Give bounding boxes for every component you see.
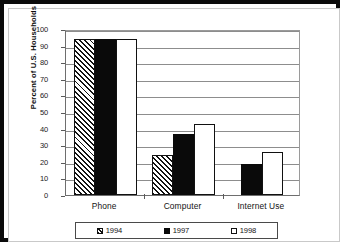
chart-canvas: Percent of U.S. Households 0102030405060… — [8, 8, 340, 242]
y-axis-tick-label: 20 — [24, 159, 48, 167]
legend-item-1998[interactable]: 1998 — [210, 227, 277, 235]
chart-outer-frame: Percent of U.S. Households 0102030405060… — [0, 0, 340, 242]
bar-computer-1994 — [152, 155, 173, 195]
legend-item-1994[interactable]: 1994 — [76, 227, 143, 235]
category-label-phone: Phone — [65, 201, 143, 211]
legend-item-1997[interactable]: 1997 — [143, 227, 210, 235]
legend-label: 1994 — [106, 227, 123, 235]
chart-legend: 199419971998 — [75, 222, 278, 239]
bar-phone-1997 — [95, 39, 116, 195]
y-axis-tick-label: 80 — [24, 59, 48, 67]
y-axis-tick-label: 10 — [24, 175, 48, 183]
legend-label: 1998 — [240, 227, 257, 235]
bar-internet-use-1998 — [262, 152, 283, 195]
y-axis-tick-mark — [61, 196, 65, 197]
category-label-internet-use: Internet Use — [222, 201, 300, 211]
y-axis-tick-label: 90 — [24, 43, 48, 51]
y-axis-tick-label: 30 — [24, 142, 48, 150]
plot-area — [65, 30, 300, 196]
bar-computer-1998 — [194, 124, 215, 195]
legend-label: 1997 — [173, 227, 190, 235]
y-axis-tick-label: 50 — [24, 109, 48, 117]
category-label-computer: Computer — [143, 201, 221, 211]
bar-computer-1997 — [173, 134, 194, 195]
gridline — [66, 31, 299, 32]
bar-phone-1994 — [74, 39, 95, 195]
y-axis-tick-label: 40 — [24, 126, 48, 134]
y-axis-tick-label: 60 — [24, 92, 48, 100]
y-axis-tick-label: 0 — [24, 192, 48, 200]
filled-black-square-icon — [164, 228, 170, 234]
bar-phone-1998 — [116, 39, 137, 195]
hatched-square-icon — [97, 228, 103, 234]
category-separator — [144, 194, 145, 199]
empty-white-square-icon — [231, 228, 237, 234]
category-separator — [223, 194, 224, 199]
bar-internet-use-1997 — [241, 164, 262, 195]
y-axis-tick-label: 100 — [24, 26, 48, 34]
y-axis-tick-label: 70 — [24, 76, 48, 84]
